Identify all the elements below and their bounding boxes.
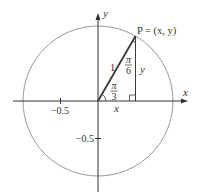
angle-pi-over-3-numerator: π [111,80,117,91]
angle-arc-pi-over-3 [102,94,106,101]
right-angle-marker [130,95,136,101]
x-tick-label: −0.5 [51,105,69,116]
x-axis-arrow-icon [181,99,188,104]
angle-pi-over-6-denominator: 6 [126,65,131,76]
y-tick-label: −0.5 [76,133,94,144]
point-p-label: P = (x, y) [137,25,177,37]
unit-circle-diagram: y x P = (x, y) 1 π 6 y π 3 x −0.5 −0.5 [0,0,198,196]
hypotenuse-label: 1 [110,62,115,73]
vertical-leg-label: y [139,63,145,75]
angle-pi-over-3-denominator: 3 [112,91,117,102]
y-axis-label: y [102,7,108,19]
angle-pi-over-6-numerator: π [126,54,132,65]
x-axis-label: x [182,86,188,98]
y-axis-arrow-icon [96,13,101,20]
horizontal-leg-label: x [113,102,119,114]
